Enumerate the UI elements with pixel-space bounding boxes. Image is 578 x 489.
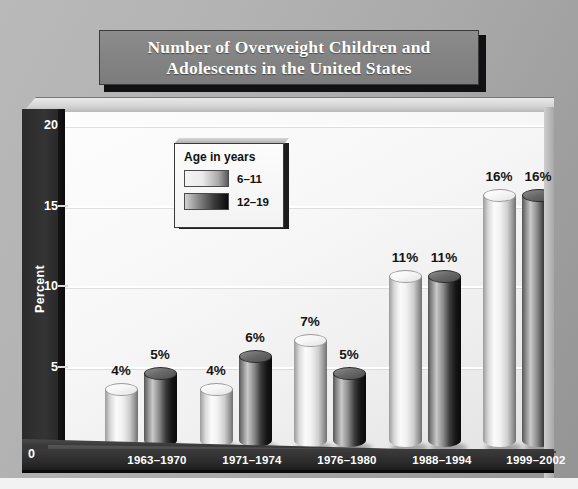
x-tick-label: 1988–1994 [412, 454, 471, 466]
y-tick-label: 20 [44, 118, 58, 132]
legend-label: 12–19 [237, 196, 269, 208]
y-tick-mark [58, 366, 68, 368]
y-axis-panel-edge [58, 109, 65, 457]
title-line-2: Adolescents in the United States [166, 58, 412, 78]
bar [522, 189, 544, 447]
y-tick-label: 15 [44, 199, 58, 213]
x-tick-label: 1976–1980 [317, 454, 376, 466]
bar-body [200, 389, 233, 447]
chart-right-bevel [544, 107, 554, 489]
bar [333, 367, 366, 448]
bar [144, 367, 177, 448]
bar [389, 270, 422, 447]
bar-value-label: 16% [524, 169, 551, 184]
bar-value-label: 4% [206, 363, 226, 378]
gridline [65, 206, 544, 208]
x-tick-label: 1999–2002 [506, 454, 565, 466]
bar-top-cap [200, 383, 233, 396]
bar-value-label: 6% [245, 330, 265, 345]
legend-swatch [184, 193, 229, 210]
bar-top-cap [389, 270, 422, 283]
legend-item: 12–19 [184, 193, 275, 210]
y-tick-mark [58, 285, 68, 287]
bar-top-cap [144, 367, 177, 380]
bar-body [105, 389, 138, 447]
x-tick-label: 1971–1974 [222, 454, 281, 466]
y-axis-title: Percent [33, 249, 47, 329]
bar-body [389, 276, 422, 447]
bar [483, 189, 516, 447]
bar [428, 270, 461, 447]
bar-body [239, 356, 272, 447]
y-tick-zero: 0 [28, 447, 35, 461]
bar [200, 383, 233, 447]
bar-value-label: 4% [111, 363, 131, 378]
bar [105, 383, 138, 447]
bar [239, 350, 272, 447]
chart-image: Number of Overweight Children and Adoles… [0, 0, 578, 489]
bar-value-label: 5% [339, 347, 359, 362]
title-banner: Number of Overweight Children and Adoles… [99, 30, 479, 85]
y-tick-mark [58, 205, 68, 207]
bar-value-label: 11% [431, 250, 457, 265]
chart-frame: 5101520 Percent 0 1963–19701971–19741976… [22, 97, 554, 472]
bar-top-cap [105, 383, 138, 396]
bar-top-cap [333, 367, 366, 380]
gridline [65, 286, 544, 288]
plot-area [65, 112, 544, 457]
legend-item: 6–11 [184, 170, 275, 187]
legend-swatch [184, 170, 229, 187]
bar [294, 334, 327, 447]
page-title: Number of Overweight Children and Adoles… [147, 37, 430, 79]
bar-top-cap [428, 270, 461, 283]
y-tick-label: 5 [51, 360, 58, 374]
x-tick-label: 1963–1970 [127, 454, 186, 466]
caption-strip [0, 478, 578, 489]
bar-value-label: 5% [150, 347, 170, 362]
legend-items: 6–1112–19 [184, 170, 275, 210]
bar-body [294, 340, 327, 447]
bar-body [483, 195, 516, 447]
bar-value-label: 11% [392, 250, 418, 265]
legend-label: 6–11 [237, 173, 262, 185]
bar-value-label: 7% [300, 314, 320, 329]
x-axis-band [22, 449, 554, 473]
bar-value-label: 16% [485, 169, 512, 184]
bar-body [333, 373, 366, 448]
bar-body [428, 276, 461, 447]
gridline [65, 125, 544, 127]
bar-body [522, 195, 544, 447]
title-line-1: Number of Overweight Children and [147, 37, 430, 57]
legend: Age in years 6–1112–19 [174, 143, 284, 228]
bar-body [144, 373, 177, 448]
chart-top-bevel [22, 97, 554, 113]
legend-title: Age in years [184, 150, 275, 164]
